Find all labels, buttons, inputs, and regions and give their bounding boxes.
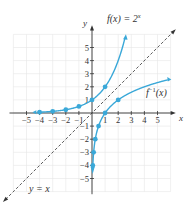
y-axis-label: y: [82, 18, 87, 28]
x-axis-arrow-icon: [171, 111, 176, 115]
x-tick-label: 5: [155, 115, 159, 125]
finv-label-arg: (x): [156, 87, 168, 99]
exp-data-point: [50, 109, 55, 114]
exp-data-point: [77, 104, 82, 109]
x-tick-label: −4: [35, 115, 45, 125]
log-data-point: [103, 111, 108, 116]
exp-arrow-left-icon: [32, 110, 36, 114]
finv-label: f−1(x): [146, 86, 167, 99]
y-tick-label: 2: [85, 82, 89, 92]
x-tick-label: −2: [61, 115, 70, 125]
log-data-point: [90, 163, 95, 168]
x-axis-label: x: [178, 113, 183, 123]
f-label: f(x) = 2x: [107, 12, 141, 25]
log-data-point: [116, 98, 121, 103]
y-tick-label: −1: [80, 121, 89, 131]
finv-label-exp: −1: [149, 86, 156, 93]
exp-arrow-up-icon: [123, 34, 128, 40]
y-tick-label: −5: [80, 174, 89, 184]
y-tick-label: −4: [80, 160, 90, 170]
exp-data-point: [90, 98, 95, 103]
log-data-point: [91, 150, 96, 155]
exp-data-point: [63, 107, 68, 112]
log-data-point: [96, 124, 101, 129]
y-tick-label: −3: [80, 147, 89, 157]
f-label-base: f(x) = 2: [107, 13, 138, 25]
x-tick-label: −3: [48, 115, 57, 125]
exponential-inverse-chart: −5−4−3−2−112345−5−4−3−2−112345 x y f(x) …: [0, 0, 186, 217]
y-tick-label: 3: [85, 69, 89, 79]
y-tick-label: 5: [85, 43, 89, 53]
x-tick-label: 4: [142, 115, 147, 125]
exp-curve: [37, 39, 125, 112]
y-tick-label: −2: [80, 134, 89, 144]
identity-line-label: y = x: [28, 183, 50, 194]
x-tick-label: −5: [22, 115, 31, 125]
x-tick-label: 2: [116, 115, 120, 125]
f-label-exp: x: [137, 12, 141, 19]
y-axis-arrow-icon: [90, 25, 94, 30]
x-tick-label: 3: [129, 115, 133, 125]
exp-data-point: [103, 84, 108, 89]
log-data-point: [93, 137, 98, 142]
exp-data-point: [37, 110, 42, 115]
log-arrow-down-icon: [91, 167, 95, 174]
